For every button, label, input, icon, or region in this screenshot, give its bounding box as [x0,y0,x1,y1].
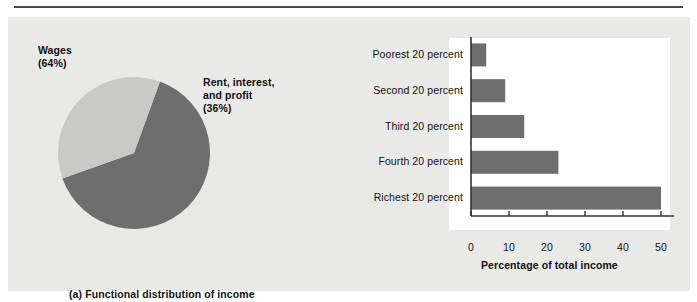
x-tick-label-0: 0 [456,241,486,253]
pie-label-rent-line1: Rent, interest, [203,76,275,89]
x-tick-label-30: 30 [570,241,600,253]
bar-poorest-20-percent [471,43,486,66]
bars-group [471,43,661,209]
pie-label-wages-line2: (64%) [38,57,72,70]
pie-label-rent-line3: (36%) [203,102,275,115]
pie-label-wages: Wages (64%) [38,44,72,70]
panel-b-bar-chart: Poorest 20 percentSecond 20 percentThird… [348,17,690,291]
category-label-poorest-20-percent: Poorest 20 percent [372,48,463,60]
bar-fourth-20-percent [471,151,558,174]
category-label-richest-20-percent: Richest 20 percent [374,191,463,203]
pie-label-rent-line2: and profit [203,89,275,102]
panel-a-caption: (a) Functional distribution of income [69,288,255,300]
bar-third-20-percent [471,115,524,138]
x-tick-label-40: 40 [608,241,638,253]
x-axis-title: Percentage of total income [481,259,618,271]
category-label-fourth-20-percent: Fourth 20 percent [378,155,463,167]
bar-richest-20-percent [471,187,661,210]
pie-label-wages-line1: Wages [38,44,72,57]
pie-label-rent-interest-profit: Rent, interest, and profit (36%) [203,76,275,115]
top-divider-rule [14,6,683,8]
bar-second-20-percent [471,79,505,102]
x-tick-label-50: 50 [646,241,676,253]
category-label-second-20-percent: Second 20 percent [373,84,463,96]
panel-a-pie-chart: Wages (64%) Rent, interest, and profit (… [8,17,348,291]
pie-svg [58,77,210,229]
x-tick-label-20: 20 [532,241,562,253]
pie-chart-graphic [58,77,210,229]
category-label-third-20-percent: Third 20 percent [385,120,463,132]
figure-container: Wages (64%) Rent, interest, and profit (… [0,0,697,302]
x-tick-label-10: 10 [494,241,524,253]
